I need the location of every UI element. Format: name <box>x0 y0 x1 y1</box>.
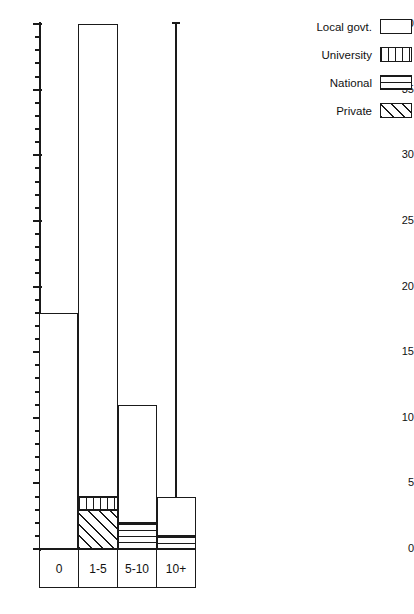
bar-segment <box>118 405 157 523</box>
y-tick-label: 30 <box>388 149 414 160</box>
bar-segment <box>78 497 117 510</box>
bar-overflow-cap <box>172 22 180 24</box>
y-tick-label: 10 <box>388 412 414 423</box>
legend-item: Private <box>300 98 412 123</box>
legend-item: University <box>300 42 412 67</box>
category-label: 1-5 <box>79 550 118 587</box>
figure: 0510152025303540 01-55-1010+ Local govt.… <box>0 0 414 614</box>
bar-segment <box>157 536 196 549</box>
y-tick-label: 0 <box>388 543 414 554</box>
legend-item: Local govt. <box>300 14 412 39</box>
category-label: 0 <box>40 550 79 587</box>
category-label: 5-10 <box>118 550 157 587</box>
bar-segment <box>157 497 196 536</box>
legend-item: National <box>300 70 412 95</box>
legend-swatch-horizontal-stripes <box>380 75 412 90</box>
legend-label: National <box>330 77 372 89</box>
bar-segment <box>78 510 117 549</box>
category-label-row: 01-55-1010+ <box>39 550 196 588</box>
legend-label: Private <box>336 105 372 117</box>
bar-group <box>39 22 196 549</box>
y-tick-label: 25 <box>388 215 414 226</box>
bar-overflow-spike <box>175 22 177 549</box>
legend-label: Local govt. <box>316 21 372 33</box>
chart-legend: Local govt.UniversityNationalPrivate <box>300 14 412 126</box>
legend-swatch-diagonal-hatch <box>380 103 412 118</box>
bar-segment <box>39 313 78 549</box>
figure-caption <box>6 604 306 614</box>
bar-segment <box>118 523 157 549</box>
legend-swatch-blank <box>380 19 412 34</box>
legend-swatch-vertical-stripes <box>380 47 412 62</box>
y-tick-label: 15 <box>388 346 414 357</box>
bar-segment <box>78 24 117 497</box>
category-label: 10+ <box>157 550 195 587</box>
legend-label: University <box>322 49 372 61</box>
y-tick-label: 5 <box>388 477 414 488</box>
y-tick-label: 20 <box>388 281 414 292</box>
